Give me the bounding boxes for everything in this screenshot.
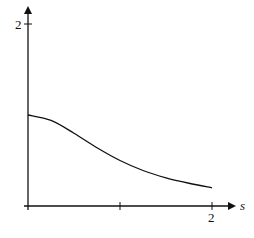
y-tick-label-2: 2 <box>15 17 22 32</box>
x-axis-label: s <box>240 198 245 213</box>
curve-f-of-s <box>28 115 212 188</box>
x-tick-label-2: 2 <box>208 210 215 225</box>
chart: 2 2 s <box>0 0 254 238</box>
